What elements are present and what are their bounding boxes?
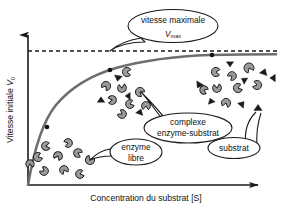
- y-axis-label-text: Vitesse initiale: [5, 86, 15, 143]
- substrate-particle: [97, 97, 105, 103]
- particle-cluster-mid: [97, 66, 152, 120]
- callout-vmax-tail: [110, 38, 145, 51]
- substrate-particle: [226, 62, 233, 67]
- enzyme-kinetics-figure: vitesse maximale Vmax complexe enzyme-su…: [0, 0, 282, 213]
- enzyme-particle: [38, 165, 49, 176]
- curve-point-high: [210, 53, 215, 58]
- enzyme-particle: [243, 62, 255, 74]
- substrate-particle: [240, 75, 248, 84]
- particle-cluster-right: [194, 62, 275, 111]
- enzyme-particle: [116, 82, 128, 94]
- enzyme-particle: [74, 168, 85, 179]
- substrate-particle: [113, 75, 122, 82]
- callout-complexe-line1: complexe: [170, 117, 206, 127]
- enzyme-particle: [59, 165, 69, 175]
- enzyme-particle: [124, 98, 135, 109]
- enzyme-particle: [220, 97, 233, 110]
- y-axis-label: Vitesse initiale V0: [5, 77, 16, 143]
- enzyme-particle: [232, 82, 244, 94]
- x-axis-label: Concentration du substrat [S]: [90, 193, 201, 203]
- callout-substrat-label: substrat: [219, 143, 249, 153]
- callout-vmax: vitesse maximale Vmax: [110, 10, 218, 52]
- enzyme-particle: [72, 147, 84, 159]
- callout-enzyme-libre-line1: enzyme: [121, 142, 151, 152]
- callout-enzyme-libre-tail: [90, 149, 112, 160]
- callout-enzyme-libre-line2: libre: [128, 153, 144, 163]
- substrate-particle: [259, 67, 269, 75]
- callout-vmax-line1: vitesse maximale: [141, 15, 206, 25]
- enzyme-particle: [116, 108, 127, 119]
- substrate-particle: [254, 104, 262, 110]
- substrate-particle: [207, 97, 216, 104]
- enzyme-particle: [62, 137, 73, 148]
- enzyme-particle: [211, 82, 223, 94]
- particle-cluster-low: [24, 137, 96, 179]
- callout-enzyme-libre: enzyme libre: [90, 139, 162, 165]
- substrate-particle: [125, 92, 130, 99]
- chart-canvas: vitesse maximale Vmax complexe enzyme-su…: [0, 0, 282, 213]
- enzyme-particle: [40, 140, 52, 152]
- curve-point-mid: [108, 68, 113, 73]
- curve-point-low: [45, 125, 50, 130]
- y-axis-label-subscript: 0: [10, 77, 16, 80]
- enzyme-particle: [100, 80, 112, 92]
- enzyme-particle: [251, 79, 264, 92]
- enzyme-particle: [210, 66, 223, 79]
- substrate-particle: [270, 74, 276, 82]
- substrate-particle: [238, 99, 247, 108]
- callout-vmax-subscript: max: [171, 33, 182, 39]
- callout-complexe-line2: enzyme-substrat: [157, 128, 220, 138]
- callout-substrat-tail-right: [257, 113, 261, 147]
- enzyme-particle: [52, 150, 64, 162]
- enzyme-particle: [228, 72, 237, 81]
- callout-complexe: complexe enzyme-substrat: [141, 92, 232, 143]
- enzyme-particle: [106, 94, 118, 106]
